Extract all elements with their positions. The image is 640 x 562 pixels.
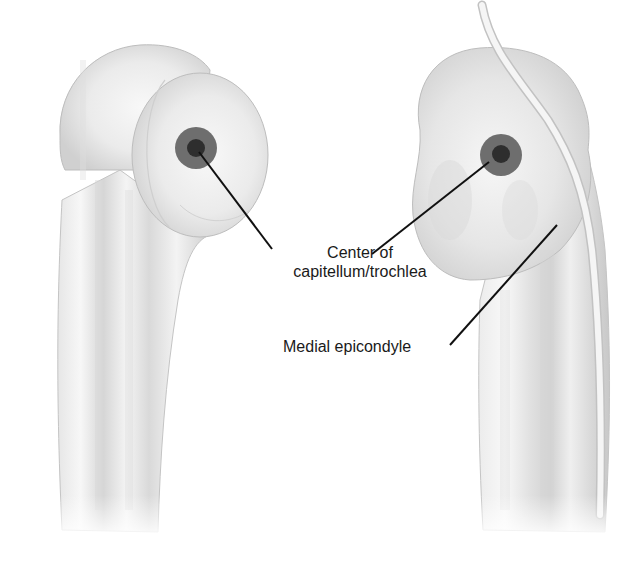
illustration — [0, 0, 640, 562]
left-bone — [55, 45, 268, 540]
center-target-inner — [187, 139, 205, 157]
center-label-line2: capitellum/trochlea — [280, 262, 440, 281]
center-target-inner — [492, 145, 510, 163]
medial-epicondyle-label: Medial epicondyle — [283, 337, 411, 356]
center-of-capitellum-trochlea-label: Center of capitellum/trochlea — [280, 243, 440, 281]
elbow-diagram: Center of capitellum/trochlea Medial epi… — [0, 0, 640, 562]
center-label-line1: Center of — [280, 243, 440, 262]
